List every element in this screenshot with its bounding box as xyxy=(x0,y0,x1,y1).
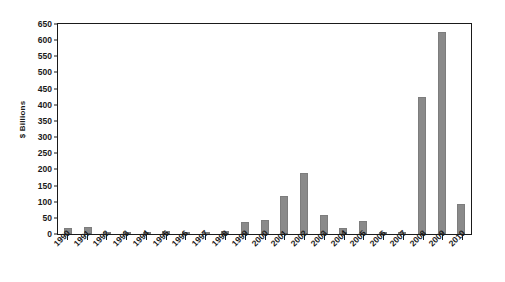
x-label-cell: 2003 xyxy=(314,240,334,280)
x-label-cell: 1992 xyxy=(97,240,117,280)
bar-chart-figure: $ Billions 65060055050045040035030025020… xyxy=(0,0,505,282)
bar-cell xyxy=(196,24,216,234)
bar-cell xyxy=(432,24,452,234)
bar-cell xyxy=(97,24,117,234)
x-label-cell: 2006 xyxy=(373,240,393,280)
x-label-cell: 2001 xyxy=(274,240,294,280)
x-label-cell: 2007 xyxy=(393,240,413,280)
x-label-cell: 2008 xyxy=(413,240,433,280)
x-label-cell: 1997 xyxy=(195,240,215,280)
x-label-cell: 1993 xyxy=(116,240,136,280)
x-label-cell: 1990 xyxy=(57,240,77,280)
bar-cell xyxy=(392,24,412,234)
bar-cell xyxy=(373,24,393,234)
plot-area: 650600550500450400350300250200150100500 xyxy=(57,23,472,235)
bar-cell xyxy=(412,24,432,234)
bar xyxy=(438,32,446,234)
bar-cell xyxy=(137,24,157,234)
x-label-cell: 1996 xyxy=(176,240,196,280)
bar-cell xyxy=(255,24,275,234)
y-axis-label: $ Billions xyxy=(18,80,27,160)
bar-cell xyxy=(176,24,196,234)
bar-cell xyxy=(274,24,294,234)
x-label-cell: 2000 xyxy=(255,240,275,280)
bar-series xyxy=(58,24,471,234)
bar-cell xyxy=(353,24,373,234)
bar-cell xyxy=(58,24,78,234)
bar-cell xyxy=(117,24,137,234)
bar xyxy=(300,173,308,234)
x-label-cell: 1991 xyxy=(77,240,97,280)
x-label-cell: 2002 xyxy=(294,240,314,280)
bar xyxy=(418,97,426,234)
bar-cell xyxy=(235,24,255,234)
bar-cell xyxy=(333,24,353,234)
x-label-cell: 1994 xyxy=(136,240,156,280)
x-label-cell: 1999 xyxy=(235,240,255,280)
x-axis-labels: 1990199119921993199419951996199719981999… xyxy=(57,240,472,280)
x-label-cell: 2004 xyxy=(334,240,354,280)
bar-cell xyxy=(215,24,235,234)
x-label-cell: 2009 xyxy=(433,240,453,280)
x-label-cell: 2010 xyxy=(452,240,472,280)
x-label-cell: 2005 xyxy=(353,240,373,280)
bar-cell xyxy=(451,24,471,234)
bar-cell xyxy=(78,24,98,234)
x-label-cell: 1998 xyxy=(215,240,235,280)
x-label-cell: 1995 xyxy=(156,240,176,280)
bar-cell xyxy=(156,24,176,234)
bar-cell xyxy=(314,24,334,234)
bar-cell xyxy=(294,24,314,234)
